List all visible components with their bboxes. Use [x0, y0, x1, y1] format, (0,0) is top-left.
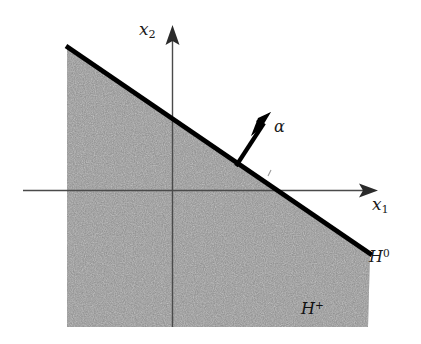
shaded-halfspace-region [60, 40, 380, 335]
normal-vector-arrow [236, 112, 271, 166]
tick-mark [268, 170, 271, 176]
figure-canvas [0, 0, 421, 344]
horizontal-axis-label: x1 [372, 196, 389, 215]
vertical-axis-label: x2 [139, 21, 156, 40]
halfspace-label: H+ [301, 300, 324, 317]
normal-vector-label: α [274, 119, 285, 135]
halfspace-figure: x2 x1 α H0 H+ [0, 0, 421, 344]
hyperplane-label: H0 [369, 248, 390, 265]
